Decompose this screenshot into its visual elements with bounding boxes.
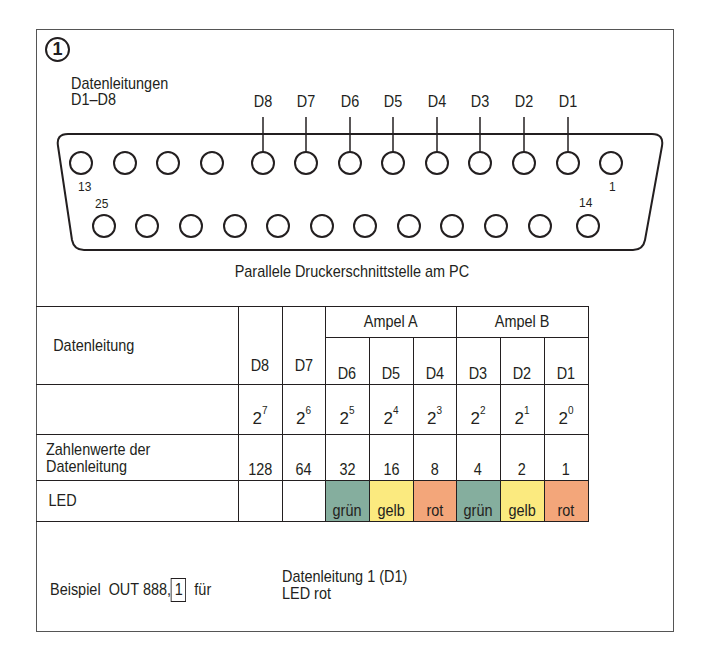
led-label: gelb — [377, 501, 404, 521]
bottom-row-pins — [93, 215, 599, 237]
group-header-ampel-b: Ampel B — [456, 307, 588, 338]
cell-value-text: 1 — [562, 460, 570, 480]
cell-power-d1: 20 — [544, 385, 588, 435]
pin-label-14: 14 — [579, 196, 592, 210]
cell-value-text: 64 — [295, 460, 311, 480]
cell-led-d5-yellow: gelb — [369, 481, 413, 522]
cell-value-text: 128 — [248, 460, 272, 480]
led-label: rot — [426, 501, 443, 521]
power-base: 2 — [252, 409, 261, 428]
cell-led-d6-green: grün — [325, 481, 369, 522]
power-exp: 0 — [568, 405, 574, 416]
cell-line-d8-text: D8 — [251, 356, 269, 376]
row-label-datenleitung: Datenleitung — [36, 307, 238, 385]
cell-value-d8: 128 — [238, 435, 282, 481]
cell-value-text: 2 — [518, 460, 526, 480]
cell-line-d3-text: D3 — [469, 364, 487, 384]
cell-value-text: 16 — [383, 460, 399, 480]
cell-led-d4-red: rot — [413, 481, 456, 522]
power-exp: 2 — [480, 405, 486, 416]
cell-line-d7: D7 — [282, 307, 325, 385]
cell-power-d6: 25 — [325, 385, 369, 435]
cell-line-d4: D4 — [413, 338, 456, 385]
cell-power-d5: 24 — [369, 385, 413, 435]
example-command-inner: Beispiel OUT 888,1 für — [50, 578, 211, 602]
power-base: 2 — [558, 409, 567, 428]
group-header-ampel-a: Ampel A — [325, 307, 456, 338]
top-row-pins — [70, 152, 622, 174]
example-command: Beispiel OUT 888,1 für — [50, 578, 240, 602]
cell-line-d5: D5 — [369, 338, 413, 385]
cell-value-d7: 64 — [282, 435, 325, 481]
example-boxed-value: 1 — [171, 578, 186, 602]
cell-line-d6: D6 — [325, 338, 369, 385]
example-description: Datenleitung 1 (D1) LED rot — [282, 568, 407, 602]
cell-value-d3: 4 — [456, 435, 500, 481]
cell-power-d7: 26 — [282, 385, 325, 435]
power-exp: 3 — [436, 405, 442, 416]
connector-caption: Parallele Druckerschnittstelle am PC — [0, 262, 704, 282]
cell-line-d1-text: D1 — [557, 364, 575, 384]
cell-value-d5: 16 — [369, 435, 413, 481]
power-exp: 1 — [524, 405, 530, 416]
cell-led-d7 — [282, 481, 325, 522]
led-label: rot — [558, 501, 575, 521]
row-label-values-text: Zahlenwerte der Datenleitung — [46, 441, 209, 475]
cell-value-d6: 32 — [325, 435, 369, 481]
power-exp: 6 — [305, 405, 311, 416]
pin-label-25: 25 — [95, 197, 108, 211]
example-line1: Datenleitung 1 (D1) — [282, 568, 407, 585]
cell-power-d4: 23 — [413, 385, 456, 435]
example-line2: LED rot — [282, 585, 407, 602]
cell-led-d3-green: grün — [456, 481, 500, 522]
example-prefix: Beispiel OUT 888, — [50, 580, 171, 599]
power-base: 2 — [339, 409, 348, 428]
row-label-led-text: LED — [48, 491, 76, 511]
cell-power-d2: 21 — [500, 385, 544, 435]
cell-line-d4-text: D4 — [425, 364, 443, 384]
led-label: grün — [464, 501, 493, 521]
row-label-values: Zahlenwerte der Datenleitung — [36, 435, 238, 481]
cell-line-d2: D2 — [500, 338, 544, 385]
group-header-ampel-b-text: Ampel B — [495, 312, 550, 332]
cell-value-text: 4 — [474, 460, 482, 480]
cell-led-d1-red: rot — [544, 481, 588, 522]
data-line-table: Datenleitung D8 D7 Ampel A Ampel B D6 D5… — [36, 306, 589, 522]
group-header-ampel-a-text: Ampel A — [364, 312, 418, 332]
row-label-led: LED — [36, 481, 238, 522]
power-exp: 7 — [262, 405, 268, 416]
cell-line-d8: D8 — [238, 307, 282, 385]
cell-value-d2: 2 — [500, 435, 544, 481]
cell-value-d4: 8 — [413, 435, 456, 481]
power-exp: 5 — [349, 405, 355, 416]
cell-led-d2-yellow: gelb — [500, 481, 544, 522]
cell-value-text: 8 — [430, 460, 438, 480]
connector-caption-text: Parallele Druckerschnittstelle am PC — [235, 262, 470, 282]
example-fuer: für — [194, 580, 211, 599]
led-label: gelb — [508, 501, 535, 521]
cell-line-d3: D3 — [456, 338, 500, 385]
cell-power-d8: 27 — [238, 385, 282, 435]
pin-label-13: 13 — [78, 180, 91, 194]
cell-led-d8 — [238, 481, 282, 522]
power-exp: 4 — [393, 405, 399, 416]
row-label-datenleitung-text: Datenleitung — [53, 336, 134, 356]
power-base: 2 — [383, 409, 392, 428]
row-label-powers — [36, 385, 238, 435]
cell-power-d3: 22 — [456, 385, 500, 435]
db25-connector-diagram — [0, 0, 704, 300]
power-base: 2 — [470, 409, 479, 428]
led-label: grün — [333, 501, 362, 521]
cell-line-d5-text: D5 — [382, 364, 400, 384]
cell-line-d2-text: D2 — [513, 364, 531, 384]
cell-line-d1: D1 — [544, 338, 588, 385]
cell-line-d7-text: D7 — [294, 356, 312, 376]
power-base: 2 — [514, 409, 523, 428]
pin-label-1: 1 — [609, 180, 616, 194]
cell-value-text: 32 — [339, 460, 355, 480]
cell-value-d1: 1 — [544, 435, 588, 481]
cell-line-d6-text: D6 — [338, 364, 356, 384]
